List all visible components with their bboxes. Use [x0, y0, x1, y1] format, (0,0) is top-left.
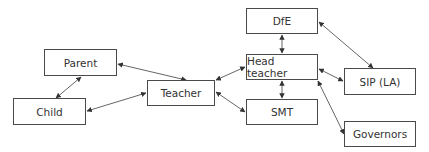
- edge-head-sip: [319, 69, 343, 81]
- node-label: DfE: [273, 15, 291, 27]
- node-governors: Governors: [344, 121, 416, 147]
- edge-parent-teacher: [118, 64, 186, 80]
- edge-teacher-head: [216, 67, 245, 80]
- node-smt: SMT: [246, 99, 318, 125]
- edge-head-governors: [318, 81, 344, 134]
- node-dfe: DfE: [246, 8, 318, 34]
- node-label: Head teacher: [247, 55, 317, 79]
- node-teacher: Teacher: [147, 80, 215, 106]
- node-sip: SIP (LA): [344, 68, 416, 95]
- node-child: Child: [13, 98, 86, 125]
- edge-teacher-smt: [216, 92, 245, 112]
- node-head: Head teacher: [246, 54, 318, 80]
- node-label: SMT: [271, 106, 293, 118]
- edge-parent-child: [56, 77, 81, 98]
- edge-child-teacher: [87, 93, 146, 111]
- edge-dfe-sip: [319, 22, 373, 68]
- node-label: Parent: [64, 57, 98, 69]
- node-parent: Parent: [44, 49, 117, 76]
- node-label: Teacher: [161, 87, 202, 99]
- node-label: SIP (LA): [360, 76, 401, 88]
- node-label: Governors: [353, 128, 407, 140]
- node-label: Child: [36, 106, 63, 118]
